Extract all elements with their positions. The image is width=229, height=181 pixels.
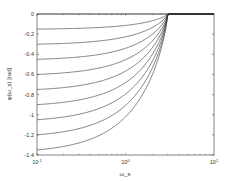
y-tick-label: -0.4 — [25, 51, 34, 57]
x-tick-label: 10-1 — [32, 158, 42, 166]
y-tick-label: -1 — [29, 112, 34, 118]
y-tick-label: -0.2 — [25, 31, 34, 37]
curve-line — [37, 14, 214, 44]
curve-line — [37, 14, 214, 74]
curve-line — [37, 14, 214, 105]
x-axis-label: ω_s — [119, 171, 130, 177]
curve-line — [37, 14, 214, 29]
y-tick-label: -1.4 — [25, 152, 34, 158]
x-tick-label: 100 — [121, 158, 130, 166]
curve-line — [37, 14, 214, 150]
y-tick-label: 0 — [31, 11, 34, 17]
plot-frame — [37, 14, 214, 155]
y-tick-label: -0.6 — [25, 71, 34, 77]
x-tick-label: 101 — [210, 158, 219, 166]
y-axis-label: φ(ω_s) [rad] — [6, 67, 12, 100]
phase-chart: 0-0.2-0.4-0.6-0.8-1-1.2-1.4 10-1100101 ω… — [0, 0, 229, 181]
y-tick-label: -0.8 — [25, 92, 34, 98]
y-tick-label: -1.2 — [25, 132, 34, 138]
data-curves — [37, 14, 214, 150]
y-axis-ticks: 0-0.2-0.4-0.6-0.8-1-1.2-1.4 — [25, 11, 214, 158]
curve-line — [37, 14, 214, 120]
